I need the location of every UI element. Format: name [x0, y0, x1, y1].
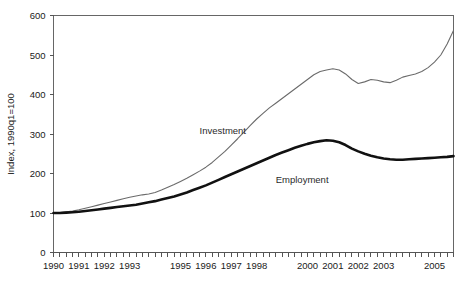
x-tick-label: 1991 — [68, 260, 89, 271]
x-tick-label: 2002 — [348, 260, 369, 271]
series-label-investment: Investment — [200, 125, 247, 136]
x-tick-label: 1993 — [119, 260, 140, 271]
y-axis-ticks: 0100200300400500600 — [30, 10, 54, 258]
x-tick-label: 1998 — [246, 260, 267, 271]
x-tick-label: 1997 — [221, 260, 242, 271]
y-tick-label: 0 — [40, 247, 45, 258]
series-label-employment: Employment — [276, 174, 329, 185]
x-tick-label: 2003 — [373, 260, 394, 271]
x-tick-label: 1992 — [94, 260, 115, 271]
x-tick-label: 2005 — [424, 260, 445, 271]
data-series-group — [54, 31, 454, 213]
series-line-investment — [54, 31, 454, 213]
chart-container: 0100200300400500600 19901991199219931995… — [0, 0, 471, 287]
y-axis-title: Index, 1990q1=100 — [5, 93, 16, 175]
x-tick-label: 2001 — [322, 260, 343, 271]
plot-area-border — [54, 16, 454, 253]
x-tick-label: 2000 — [297, 260, 318, 271]
x-tick-label: 1995 — [170, 260, 191, 271]
x-tick-label: 1996 — [195, 260, 216, 271]
x-axis-ticks: 1990199119921993199519961997199820002001… — [43, 253, 454, 271]
y-tick-label: 200 — [30, 168, 46, 179]
y-tick-label: 600 — [30, 10, 46, 21]
y-tick-label: 400 — [30, 89, 46, 100]
series-annotations: InvestmentEmployment — [200, 125, 329, 185]
y-tick-label: 100 — [30, 208, 46, 219]
plot-frame-group — [54, 16, 454, 253]
series-line-employment — [54, 140, 454, 213]
line-chart-svg: 0100200300400500600 19901991199219931995… — [0, 0, 471, 287]
x-tick-label: 1990 — [43, 260, 64, 271]
y-axis-title-group: Index, 1990q1=100 — [5, 93, 16, 175]
y-tick-label: 300 — [30, 129, 46, 140]
y-tick-label: 500 — [30, 50, 46, 61]
